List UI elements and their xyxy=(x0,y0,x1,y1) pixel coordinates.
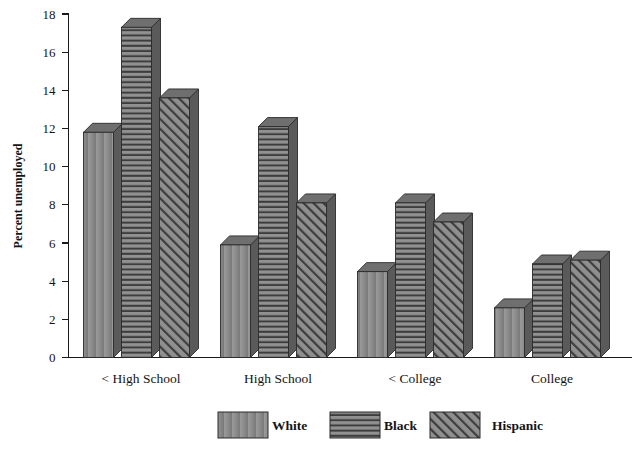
chart-canvas: 024681012141618 Percent unemployed < Hig… xyxy=(0,0,641,450)
category-label: College xyxy=(531,371,573,386)
y-tick-label: 14 xyxy=(43,83,57,98)
bar-side-face xyxy=(190,89,199,358)
bar xyxy=(533,255,572,358)
unemployment-bar-chart: 024681012141618 Percent unemployed < Hig… xyxy=(0,0,641,450)
bar-side-face xyxy=(601,251,610,357)
legend-swatch xyxy=(218,412,268,438)
y-tick-label: 16 xyxy=(43,45,57,60)
y-tick-label: 12 xyxy=(43,121,56,136)
bar xyxy=(297,194,336,358)
y-tick-label: 18 xyxy=(43,7,56,22)
category-label: < High School xyxy=(102,371,181,386)
bar xyxy=(434,213,473,357)
legend-label: White xyxy=(272,418,307,433)
bar xyxy=(84,123,123,357)
category-label: < College xyxy=(389,371,442,386)
y-tick-label: 0 xyxy=(49,350,56,365)
y-tick-label: 4 xyxy=(49,274,56,289)
bar-front-face xyxy=(434,222,464,357)
bar-front-face xyxy=(297,203,327,358)
bar xyxy=(571,251,610,357)
bar xyxy=(259,118,298,358)
y-tick-label: 6 xyxy=(49,236,56,251)
legend-label: Hispanic xyxy=(492,418,543,433)
bar xyxy=(495,299,534,358)
bar-front-face xyxy=(259,127,289,358)
bar-side-face xyxy=(327,194,336,358)
legend-label: Black xyxy=(384,418,417,433)
bar xyxy=(122,18,161,357)
category-label: High School xyxy=(244,371,312,386)
y-tick-label: 8 xyxy=(49,197,56,212)
y-tick-label: 10 xyxy=(43,159,56,174)
bar-front-face xyxy=(122,27,152,357)
bar-front-face xyxy=(533,264,563,358)
bar-front-face xyxy=(396,203,426,358)
bar xyxy=(396,194,435,358)
bar-front-face xyxy=(84,132,114,357)
bar-front-face xyxy=(495,308,525,358)
bar-front-face xyxy=(571,260,601,357)
bar-front-face xyxy=(358,272,388,358)
legend-swatch xyxy=(430,412,480,438)
legend-swatch xyxy=(330,412,380,438)
bar xyxy=(160,89,199,358)
bar-front-face xyxy=(160,98,190,358)
bar-front-face xyxy=(221,245,251,358)
bar xyxy=(221,236,260,358)
bar xyxy=(358,263,397,358)
bar-side-face xyxy=(464,213,473,357)
y-tick-label: 2 xyxy=(49,312,56,327)
y-axis-title: Percent unemployed xyxy=(11,143,25,248)
